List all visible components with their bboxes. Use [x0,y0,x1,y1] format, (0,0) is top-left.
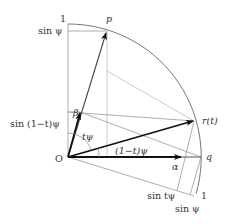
unit-arc [68,24,201,194]
vertical-one-label: 1 [60,13,66,24]
rotated-one-label: 1 [201,190,207,201]
slerp-diagram: 1 sin ψ p sin (1−t)ψ β tψ (1−t)ψ O r(t) … [0,0,229,224]
p-label: p [106,13,112,24]
alpha-label: α [172,161,179,172]
t-psi-label: tψ [82,131,94,142]
1mt-psi-label: (1−t)ψ [115,145,148,156]
1mt-psi-angle-arc [98,148,99,157]
p-to-r-line [107,71,194,121]
r-to-rotated-axis [177,121,194,191]
r-label: r(t) [202,115,218,126]
origin-label: O [55,153,63,164]
rotated-sin-t-psi-label: sin tψ [147,190,175,201]
q-to-rotated-axis [190,157,201,195]
beta-label: β [72,107,79,118]
q-label: q [206,151,212,162]
sin-1mt-psi-line [68,112,194,121]
vertical-sin-psi-label: sin ψ [38,25,63,36]
vertical-sin-1mt-psi-label: sin (1−t)ψ [10,118,60,129]
rotated-sin-psi-label: sin ψ [175,203,200,214]
